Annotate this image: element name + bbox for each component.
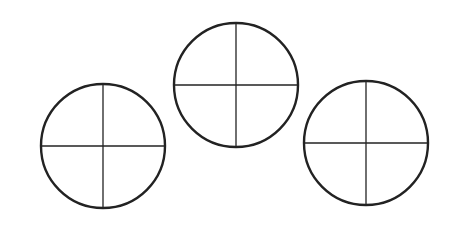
left-circle — [41, 84, 165, 208]
right-circle — [304, 81, 428, 205]
quartered-circles-diagram — [0, 0, 463, 230]
diagram-canvas — [0, 0, 463, 230]
middle-circle — [174, 23, 298, 147]
